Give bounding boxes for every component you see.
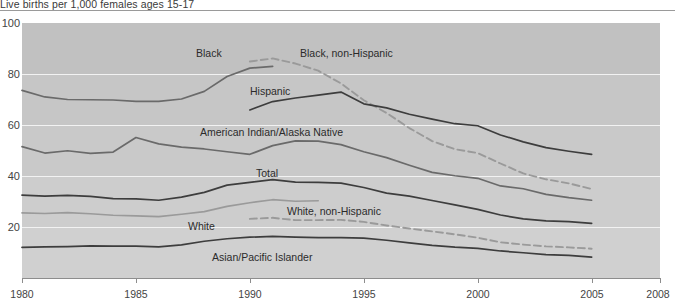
x-tick-1990 bbox=[250, 278, 251, 283]
annotation-total: Total bbox=[256, 167, 278, 179]
gridline-20 bbox=[22, 227, 660, 228]
y-tick-100: 100 bbox=[0, 17, 20, 29]
gridline-40 bbox=[22, 176, 660, 177]
band-60-80 bbox=[22, 74, 660, 125]
annotation-white-non-hispanic: White, non-Hispanic bbox=[287, 205, 381, 217]
plot-area bbox=[22, 23, 660, 278]
annotation-american-indian: American Indian/Alaska Native bbox=[200, 126, 343, 138]
x-label-1985: 1985 bbox=[116, 288, 156, 300]
header-rule bbox=[0, 10, 675, 11]
x-tick-2000 bbox=[478, 278, 479, 283]
y-tick-80: 80 bbox=[0, 68, 20, 80]
x-axis-line bbox=[22, 278, 660, 279]
annotation-asian-pacific: Asian/Pacific Islander bbox=[212, 251, 312, 263]
chart-caption: Live births per 1,000 females ages 15-17 bbox=[0, 0, 194, 10]
x-tick-1980 bbox=[22, 278, 23, 283]
annotation-black-non-hispanic: Black, non-Hispanic bbox=[300, 47, 393, 59]
y-tick-20: 20 bbox=[0, 221, 20, 233]
x-label-2005: 2005 bbox=[572, 288, 612, 300]
y-tick-40: 40 bbox=[0, 170, 20, 182]
x-label-2000: 2000 bbox=[458, 288, 498, 300]
gridline-80 bbox=[22, 74, 660, 75]
x-tick-2005 bbox=[592, 278, 593, 283]
x-label-2008: 2008 bbox=[638, 288, 675, 300]
band-0-20 bbox=[22, 227, 660, 278]
x-tick-1985 bbox=[136, 278, 137, 283]
teen-birth-rate-chart: Live births per 1,000 females ages 15-17… bbox=[0, 0, 675, 307]
x-tick-2008 bbox=[660, 278, 661, 283]
band-20-40 bbox=[22, 176, 660, 227]
x-tick-1995 bbox=[364, 278, 365, 283]
annotation-hispanic: Hispanic bbox=[250, 85, 290, 97]
x-label-1990: 1990 bbox=[230, 288, 270, 300]
y-tick-60: 60 bbox=[0, 119, 20, 131]
annotation-black: Black bbox=[196, 47, 222, 59]
x-label-1995: 1995 bbox=[344, 288, 384, 300]
x-label-1980: 1980 bbox=[2, 288, 42, 300]
annotation-white: White bbox=[188, 220, 215, 232]
